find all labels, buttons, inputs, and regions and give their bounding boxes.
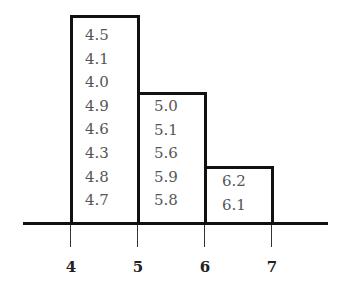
data-value: 4.8 [85,166,109,190]
data-value: 4.7 [85,189,109,213]
data-value: 4.0 [85,71,109,95]
data-value: 6.2 [222,170,246,194]
x-tick [204,225,205,247]
bar-6-7-values: 6.2 6.1 [222,170,246,217]
x-tick [70,225,71,247]
data-value: 4.3 [85,142,109,166]
x-tick [137,225,138,247]
bar-4-5-values: 4.5 4.1 4.0 4.9 4.6 4.3 4.8 4.7 [85,24,109,213]
x-tick-label: 6 [195,258,215,276]
data-value: 5.1 [154,119,178,143]
data-value: 4.9 [85,95,109,119]
x-axis-line [23,222,328,225]
data-value: 5.0 [154,95,178,119]
data-value: 5.6 [154,142,178,166]
x-tick-label: 5 [128,258,148,276]
data-value: 4.6 [85,118,109,142]
data-value: 4.1 [85,48,109,72]
data-value: 4.5 [85,24,109,48]
data-value: 5.8 [154,189,178,213]
histogram-chart: 4.5 4.1 4.0 4.9 4.6 4.3 4.8 4.7 5.0 5.1 … [0,0,345,289]
data-value: 5.9 [154,166,178,190]
x-tick [271,225,272,247]
data-value: 6.1 [222,194,246,218]
x-tick-label: 7 [262,258,282,276]
x-tick-label: 4 [61,258,81,276]
bar-5-6-values: 5.0 5.1 5.6 5.9 5.8 [154,95,178,213]
